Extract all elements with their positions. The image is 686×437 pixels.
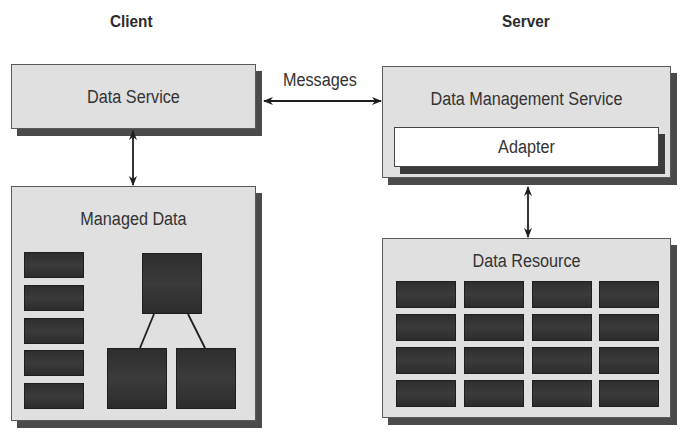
tree-link-left	[140, 314, 154, 348]
connector-arrows	[0, 0, 686, 437]
tree-link-right	[188, 314, 205, 348]
